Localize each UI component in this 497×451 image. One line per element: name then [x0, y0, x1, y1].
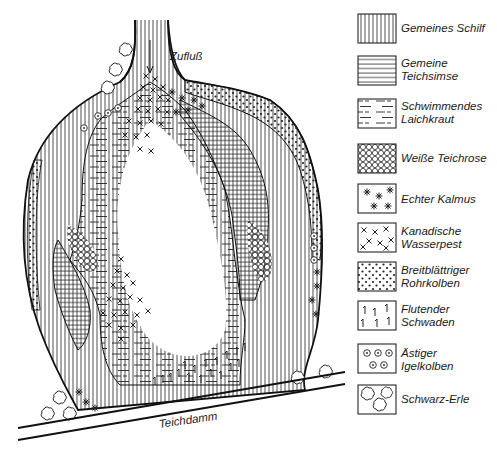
legend-swatches	[358, 14, 396, 414]
legend-label-wasserpest: KanadischeWasserpest	[401, 225, 462, 251]
legend-label-laichkraut: SchwimmendesLaichkraut	[401, 100, 482, 126]
inflow-label: Zufluß	[170, 50, 203, 62]
legend-label-teichsimse: GemeineTeichsimse	[401, 57, 458, 83]
legend-label-igelkolben: ÄstigerIgelkolben	[401, 347, 453, 373]
legend-label-teichrose: Weiße Teichrose	[401, 152, 487, 165]
legend-label-kalmus: Echter Kalmus	[401, 193, 476, 206]
legend-label-schwaden: FlutenderSchwaden	[401, 303, 455, 329]
legend-label-rohrkolben: BreitblättrigerRohrkolben	[401, 264, 469, 290]
legend-label-schilf: Gemeines Schilf	[401, 22, 485, 35]
pond-body	[24, 20, 323, 410]
legend-label-erle: Schwarz-Erle	[401, 393, 469, 406]
